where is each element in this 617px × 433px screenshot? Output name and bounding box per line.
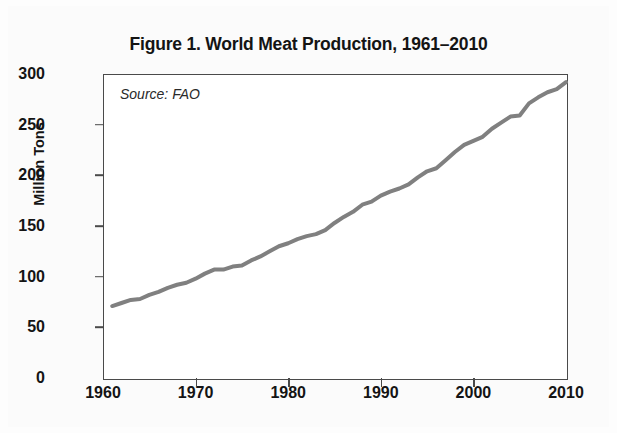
y-tick-label-150: 150 bbox=[0, 217, 45, 235]
y-tick-label-100: 100 bbox=[0, 268, 45, 286]
x-tick-mark-1990 bbox=[381, 378, 383, 387]
x-tick-mark-1980 bbox=[288, 378, 290, 387]
y-tick-label-300: 300 bbox=[0, 65, 45, 83]
figure-inner-panel: Figure 1. World Meat Production, 1961–20… bbox=[8, 6, 609, 427]
x-tick-mark-2000 bbox=[473, 378, 475, 387]
y-tick-label-250: 250 bbox=[0, 116, 45, 134]
data-line-svg bbox=[103, 74, 566, 378]
plot-wrapper: Million Tons Source: FAO 0 50 100 150 20… bbox=[8, 6, 609, 427]
y-tick-label-0: 0 bbox=[0, 369, 45, 387]
x-tick-mark-1970 bbox=[196, 378, 198, 387]
y-tick-label-200: 200 bbox=[0, 166, 45, 184]
x-tick-label-1960: 1960 bbox=[63, 384, 143, 402]
series-line-world-meat-production bbox=[112, 82, 566, 306]
x-tick-label-2010: 2010 bbox=[526, 384, 606, 402]
y-tick-label-50: 50 bbox=[0, 318, 45, 336]
figure-container: Figure 1. World Meat Production, 1961–20… bbox=[0, 0, 617, 433]
